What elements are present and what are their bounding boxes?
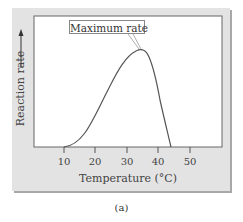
x-tick-label: 30 (117, 156, 137, 167)
plot-area (34, 16, 222, 147)
x-tick-label: 10 (54, 156, 74, 167)
x-tick-label: 50 (180, 156, 200, 167)
x-axis-label: Temperature (°C) (34, 172, 222, 185)
figure-caption: (a) (0, 202, 243, 213)
x-tick-label: 40 (148, 156, 168, 167)
x-axis-ticks (64, 147, 190, 153)
x-tick-label: 20 (85, 156, 105, 167)
maximum-rate-annotation: Maximum rate (69, 20, 145, 34)
y-axis-label: Reaction rate (14, 49, 27, 129)
